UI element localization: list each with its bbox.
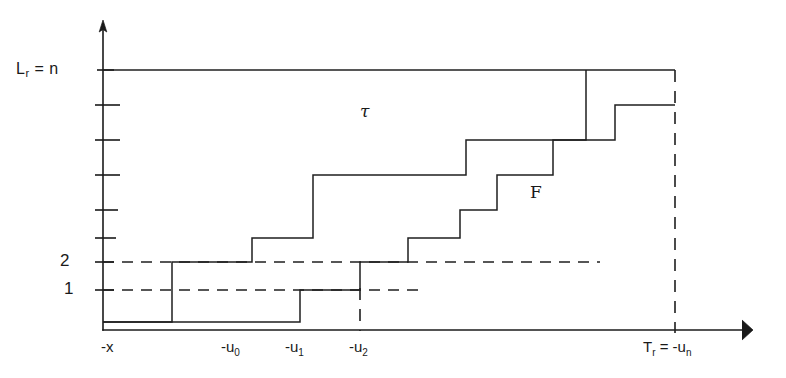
tau-curve-label: τ (360, 103, 369, 120)
x-tick-label-tr: Tr = -un (643, 339, 692, 358)
y-axis-label-lr-suffix: = n (30, 60, 59, 77)
x-tick-label-u0: -u0 (221, 339, 240, 358)
x-axis-arrow-icon (742, 320, 753, 340)
axis-group (99, 20, 753, 340)
x-tick-label-tr-sub2: n (686, 347, 692, 358)
y-axis-label-lr-main: L (16, 60, 25, 77)
x-tick-label-minus-x: -x (101, 339, 114, 354)
y-axis-label-2: 2 (60, 252, 69, 269)
y-axis-label-1: 1 (64, 280, 73, 297)
x-tick-label-u2-sub: 2 (362, 347, 368, 358)
x-tick-label-u1-main: -u (285, 338, 298, 355)
x-tick-label-u2: -u2 (349, 339, 368, 358)
x-tick-label-tr-main: T (643, 338, 652, 355)
x-tick-label-u0-main: -u (221, 338, 234, 355)
x-tick-label-u0-sub: 0 (234, 347, 240, 358)
y-axis-label-lr-n: Lr = n (16, 61, 59, 79)
y-tick-marks (95, 70, 120, 290)
tau-step-curve (103, 70, 586, 322)
f-curve-label: F (530, 184, 542, 201)
x-tick-label-u1: -u1 (285, 339, 304, 358)
x-tick-label-u1-sub: 1 (298, 347, 304, 358)
figure-container: Lr = n 2 1 τ F -x -u0 -u1 -u2 Tr = -un (0, 0, 786, 378)
x-tick-label-u2-main: -u (349, 338, 362, 355)
step-function-plot (0, 0, 786, 378)
x-tick-label-tr-suffix: = -u (656, 338, 686, 355)
